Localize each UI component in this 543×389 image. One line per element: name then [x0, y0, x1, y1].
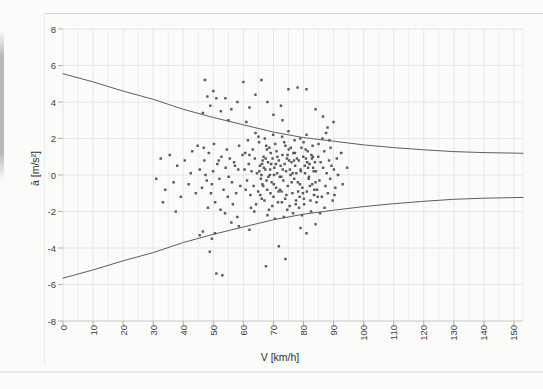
scatter-point	[263, 166, 266, 169]
x-tick-label: 110	[388, 325, 399, 340]
y-axis-title: ā [m/s²]	[29, 151, 41, 186]
scatter-point	[293, 177, 296, 180]
scatter-point	[284, 198, 287, 201]
scatter-point	[273, 183, 276, 186]
scatter-point	[206, 95, 209, 98]
x-tick-label: 90	[328, 325, 339, 336]
scatter-point	[254, 157, 257, 160]
scatter-point	[220, 156, 223, 159]
scatter-point	[334, 187, 337, 190]
scatter-point	[271, 205, 274, 208]
scatter-point	[276, 172, 279, 175]
scatter-point	[291, 181, 294, 184]
scatter-point	[265, 179, 268, 182]
scatter-point	[209, 250, 212, 253]
scatter-point	[288, 159, 291, 162]
x-tick-label: 120	[418, 325, 429, 341]
scatter-point	[302, 192, 305, 195]
scatter-point	[245, 121, 248, 124]
scatter-point	[270, 163, 273, 166]
scatter-point	[286, 208, 289, 211]
scatter-point	[248, 163, 251, 166]
scatter-point	[290, 146, 293, 149]
scatter-point	[286, 154, 289, 157]
scatter-point	[164, 188, 167, 191]
scatter-point	[340, 152, 343, 155]
scatter-point	[306, 190, 309, 193]
scatter-point	[279, 165, 282, 168]
scatter-point	[322, 115, 325, 118]
scatter-point	[248, 154, 251, 157]
scatter-point	[257, 135, 260, 138]
scatter-point	[328, 159, 331, 162]
scatter-point	[227, 196, 230, 199]
scatter-point	[265, 265, 268, 268]
scatter-point	[242, 81, 245, 84]
scatter-point	[306, 161, 309, 164]
scatter-point	[303, 198, 306, 201]
scatter-point	[315, 201, 318, 204]
scatter-point	[336, 157, 339, 160]
scatter-point	[308, 176, 311, 179]
scatter-point	[241, 154, 244, 157]
scatter-point	[249, 194, 252, 197]
scatter-point	[310, 210, 313, 213]
scatter-point	[244, 152, 247, 155]
scatter-point	[203, 146, 206, 149]
scatter-point	[175, 210, 178, 213]
scatter-point	[305, 88, 308, 91]
scatter-point	[218, 159, 221, 162]
scatter-point	[305, 134, 308, 137]
scatter-point	[264, 137, 267, 140]
scatter-point	[313, 188, 316, 191]
scatter-point	[266, 188, 269, 191]
scatter-point	[326, 126, 329, 129]
scatter-point	[172, 181, 175, 184]
scatter-point	[272, 196, 275, 199]
scatter-point	[221, 274, 224, 277]
scatter-point	[278, 159, 281, 162]
scatter-point	[195, 192, 198, 195]
scatter-point	[281, 119, 284, 122]
scatter-point	[346, 166, 349, 169]
scatter-point	[190, 172, 193, 175]
y-tick-label: -8	[26, 316, 56, 327]
scatter-point	[305, 157, 308, 160]
scatter-point	[260, 174, 263, 177]
scatter-point	[314, 223, 317, 226]
scatter-point	[282, 168, 285, 171]
scatter-point	[281, 154, 284, 157]
scatter-point	[222, 188, 225, 191]
scatter-point	[277, 201, 280, 204]
x-tick-label: 60	[238, 325, 249, 336]
scatter-point	[260, 79, 263, 82]
y-tick-label: -2	[26, 206, 56, 217]
scatter-point	[267, 161, 270, 164]
scatter-point	[261, 198, 264, 201]
scatter-point	[287, 88, 290, 91]
scatter-point	[324, 185, 327, 188]
y-tick-label: 2	[26, 133, 56, 144]
scatter-point	[308, 163, 311, 166]
scatter-point	[268, 146, 271, 149]
scatter-point	[291, 192, 294, 195]
scatter-point	[296, 86, 299, 89]
scatter-point	[210, 192, 213, 195]
scatter-point	[224, 212, 227, 215]
scatter-point	[269, 168, 272, 171]
scatter-point	[294, 152, 297, 155]
scatter-point	[224, 166, 227, 169]
scatter-point	[313, 170, 316, 173]
x-tick-label: 40	[178, 325, 189, 336]
scatter-point	[295, 199, 298, 202]
scatter-point	[261, 163, 264, 166]
scatter-point	[191, 150, 194, 153]
x-tick-label: 130	[448, 325, 459, 341]
scatter-point	[206, 179, 209, 182]
scatter-point	[314, 161, 317, 164]
scatter-point	[278, 245, 281, 248]
scatter-point	[307, 166, 310, 169]
scatter-point	[199, 168, 202, 171]
scatter-point	[211, 183, 214, 186]
scatter-point	[208, 152, 211, 155]
